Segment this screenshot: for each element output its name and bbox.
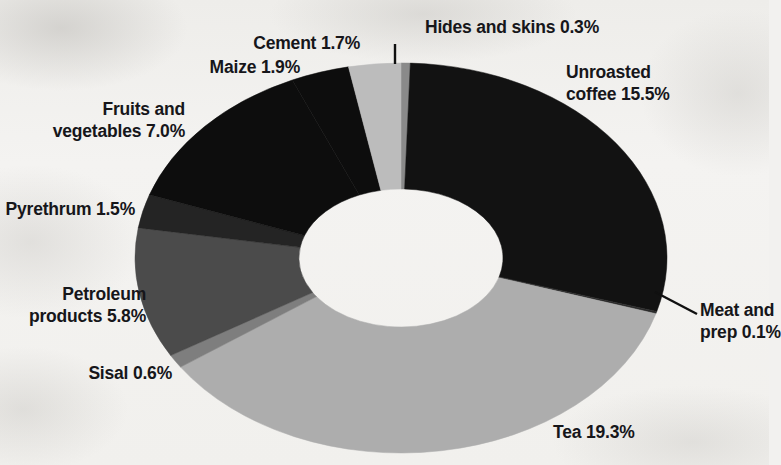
callout-fruits-and-vegetables: Fruits and vegetables 7.0% <box>30 98 185 143</box>
callout-meat-and-prep-line2: prep 0.1% <box>700 321 781 343</box>
callout-cement: Cement 1.7% <box>160 32 360 54</box>
callout-meat-and-prep: Meat and prep 0.1% <box>700 299 781 344</box>
callout-maize-line1: Maize 1.9% <box>100 56 300 78</box>
callout-unroasted-coffee-line1: Unroasted <box>566 61 670 83</box>
callout-petroleum-products-line2: products 5.8% <box>0 305 146 327</box>
callout-maize: Maize 1.9% <box>100 56 300 78</box>
callout-meat-and-prep-line1: Meat and <box>700 299 781 321</box>
leader-line-meat-and-prep <box>655 292 697 314</box>
callout-hides-and-skins-line1: Hides and skins 0.3% <box>425 16 599 38</box>
callout-fruits-and-vegetables-line2: vegetables 7.0% <box>30 120 185 142</box>
callout-cement-line1: Cement 1.7% <box>160 32 360 54</box>
callout-tea-line1: Tea 19.3% <box>553 421 635 443</box>
callout-petroleum-products-line1: Petroleum <box>0 283 146 305</box>
callout-unroasted-coffee-line2: coffee 15.5% <box>566 83 670 105</box>
callout-sisal-line1: Sisal 0.6% <box>20 362 172 384</box>
callout-pyrethrum: Pyrethrum 1.5% <box>0 198 135 220</box>
callout-unroasted-coffee: Unroasted coffee 15.5% <box>566 61 670 106</box>
pie-slices-group <box>135 63 667 453</box>
callout-pyrethrum-line1: Pyrethrum 1.5% <box>0 198 135 220</box>
callout-fruits-and-vegetables-line1: Fruits and <box>30 98 185 120</box>
callout-sisal: Sisal 0.6% <box>20 362 172 384</box>
callout-tea: Tea 19.3% <box>553 421 635 443</box>
callout-hides-and-skins: Hides and skins 0.3% <box>425 16 599 38</box>
callout-petroleum-products: Petroleum products 5.8% <box>0 283 146 328</box>
